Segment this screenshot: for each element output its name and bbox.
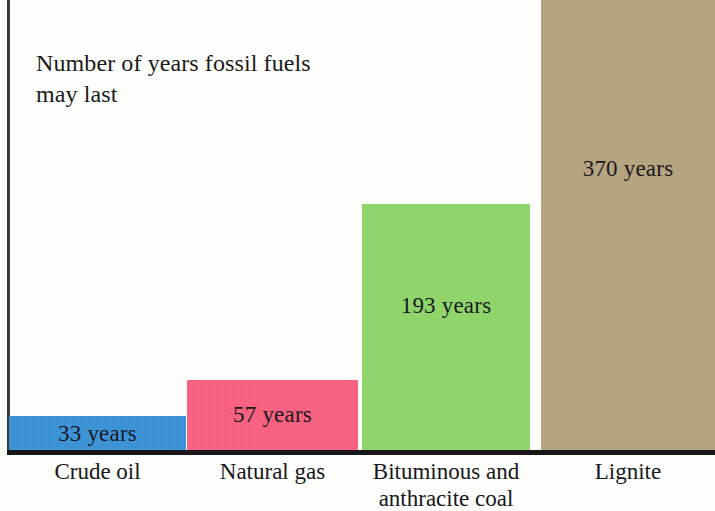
bar-bituminous-and-anthracite-coal: 193 years xyxy=(362,204,530,450)
bar-value-natural-gas: 57 years xyxy=(187,402,358,428)
category-label-crude-oil: Crude oil xyxy=(9,458,186,485)
bar-value-lignite: 370 years xyxy=(541,156,715,182)
bar-value-crude-oil: 33 years xyxy=(9,421,186,447)
category-label-lignite: Lignite xyxy=(541,458,715,485)
bar-lignite: 370 years xyxy=(541,0,715,450)
bar-value-bituminous-and-anthracite-coal: 193 years xyxy=(362,293,530,319)
bar-crude-oil: 33 years xyxy=(9,416,186,450)
plot-area: Number of years fossil fuels may last 33… xyxy=(0,0,715,456)
fossil-fuel-bar-chart: Number of years fossil fuels may last 33… xyxy=(0,0,715,511)
bar-natural-gas: 57 years xyxy=(187,380,358,450)
category-label-bituminous-and-anthracite-coal: Bituminous and anthracite coal xyxy=(356,458,536,511)
category-label-natural-gas: Natural gas xyxy=(187,458,358,485)
chart-title: Number of years fossil fuels may last xyxy=(36,48,456,109)
x-axis-line xyxy=(7,450,715,455)
x-axis-category-labels: Crude oil Natural gas Bituminous and ant… xyxy=(0,456,715,511)
y-axis-line xyxy=(7,0,10,452)
